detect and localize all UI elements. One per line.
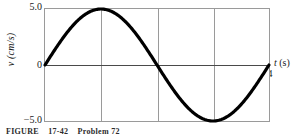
y-tick-label-max: 5.0	[12, 1, 42, 12]
velocity-curve	[45, 9, 269, 121]
y-tick-label-zero: 0	[20, 59, 42, 70]
caption-label: FIGURE	[6, 127, 39, 136]
plot-frame	[44, 8, 270, 122]
caption-problem: Problem 72	[78, 127, 120, 136]
figure-caption: FIGURE 17-42 Problem 72	[6, 127, 120, 136]
y-tick-label-min: −5.0	[10, 114, 42, 125]
y-axis-label: v (cm/s)	[5, 20, 16, 80]
figure-container: v (cm/s) 5.0 0 −5.0 1 2 3 4 t (s) FIGURE…	[0, 0, 292, 136]
caption-number: 17-42	[48, 127, 68, 136]
x-axis-label: t (s)	[274, 57, 290, 68]
x-axis-label-unit: (s)	[279, 57, 290, 68]
